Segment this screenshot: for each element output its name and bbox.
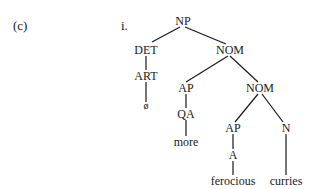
node-a: A (229, 149, 238, 161)
node-qa: QA (177, 108, 194, 120)
edge-np-det (152, 27, 180, 42)
leaf-curries: curries (270, 175, 303, 187)
node-np: NP (175, 15, 190, 27)
node-art: ART (134, 70, 157, 82)
leaf-ferocious: ferocious (211, 175, 256, 187)
edge-nom2-n (262, 94, 283, 122)
node-det: DET (134, 44, 157, 56)
node-nom: NOM (216, 44, 244, 56)
leaf-more: more (174, 136, 199, 148)
node-ap-inner: AP (225, 122, 240, 134)
edge-nom2-ap2 (235, 94, 258, 122)
edge-np-nom (185, 27, 226, 44)
node-n: N (282, 122, 291, 134)
node-ap: AP (178, 82, 193, 94)
node-nom-inner: NOM (246, 82, 274, 94)
edge-nom-ap (186, 56, 228, 82)
node-null: ø (144, 100, 149, 112)
edge-nom-nom (230, 56, 258, 82)
